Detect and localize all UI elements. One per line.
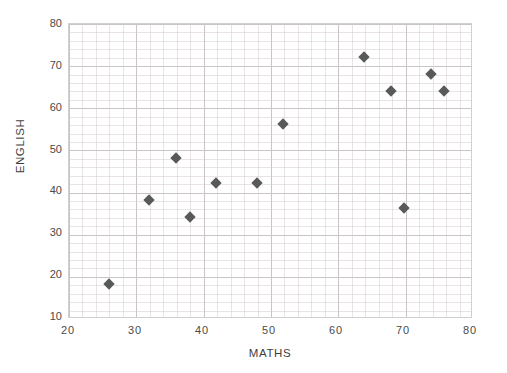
plot-area bbox=[68, 23, 472, 318]
x-tick-label: 70 bbox=[380, 324, 426, 336]
data-point bbox=[104, 278, 115, 289]
data-point bbox=[144, 194, 155, 205]
data-point bbox=[211, 177, 222, 188]
y-axis-title: ENGLISH bbox=[14, 91, 26, 201]
x-tick-label: 50 bbox=[246, 324, 292, 336]
data-point bbox=[184, 211, 195, 222]
data-point bbox=[425, 69, 436, 80]
data-point bbox=[385, 85, 396, 96]
x-tick-label: 40 bbox=[179, 324, 225, 336]
x-tick-label: 60 bbox=[313, 324, 359, 336]
data-point bbox=[251, 177, 262, 188]
scatter-chart-figure: 1020304050607080 20304050607080 MATHS EN… bbox=[0, 0, 507, 373]
x-axis-title: MATHS bbox=[68, 347, 472, 359]
y-tick-label: 70 bbox=[22, 59, 62, 71]
y-tick-label: 40 bbox=[22, 184, 62, 196]
data-point bbox=[171, 152, 182, 163]
data-point bbox=[439, 85, 450, 96]
x-axis-tick-labels: 20304050607080 bbox=[68, 324, 472, 342]
data-point bbox=[398, 202, 409, 213]
y-tick-label: 30 bbox=[22, 226, 62, 238]
x-tick-label: 30 bbox=[112, 324, 158, 336]
y-tick-label: 60 bbox=[22, 101, 62, 113]
y-tick-label: 50 bbox=[22, 143, 62, 155]
x-tick-label: 80 bbox=[447, 324, 493, 336]
x-tick-label: 20 bbox=[45, 324, 91, 336]
data-point bbox=[278, 119, 289, 130]
y-tick-label: 80 bbox=[22, 17, 62, 29]
y-tick-label: 10 bbox=[22, 310, 62, 322]
y-tick-label: 20 bbox=[22, 268, 62, 280]
data-point bbox=[358, 52, 369, 63]
